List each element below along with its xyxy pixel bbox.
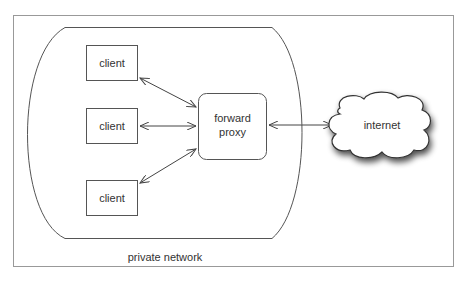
proxy-label-line2: proxy — [198, 125, 267, 139]
client-label-2: client — [86, 119, 138, 133]
private-network-label: private network — [110, 250, 220, 264]
arrow-client1-proxy — [140, 78, 196, 107]
diagram-canvas — [0, 0, 463, 281]
proxy-label-line1: forward — [198, 111, 267, 125]
client-label-1: client — [86, 56, 138, 70]
client-label-3: client — [86, 191, 138, 205]
arrow-client3-proxy — [140, 149, 196, 183]
internet-label: internet — [340, 118, 424, 132]
